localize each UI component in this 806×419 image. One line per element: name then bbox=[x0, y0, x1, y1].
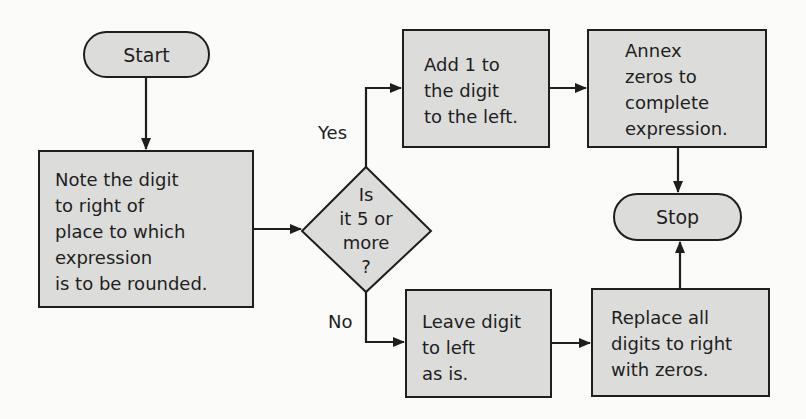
annex-zeros-process: Annex zeros to complete expression. bbox=[587, 29, 767, 148]
decision-line-1: Is bbox=[311, 183, 421, 207]
annex-line-2: zeros to bbox=[625, 64, 751, 90]
note-line-5: is to be rounded. bbox=[55, 271, 238, 297]
start-label: Start bbox=[123, 42, 169, 68]
edge-decision-to-leave bbox=[366, 292, 404, 342]
add-one-process: Add 1 to the digit to the left. bbox=[402, 29, 550, 148]
note-line-4: expression bbox=[55, 245, 238, 271]
stop-label: Stop bbox=[656, 204, 699, 230]
replace-line-3: with zeros. bbox=[611, 357, 754, 383]
leave-line-3: as is. bbox=[422, 361, 536, 387]
no-label: No bbox=[328, 311, 352, 333]
note-line-2: to right of bbox=[55, 193, 238, 219]
yes-label: Yes bbox=[318, 122, 347, 144]
decision-line-3: more bbox=[311, 231, 421, 255]
replace-line-1: Replace all bbox=[611, 305, 754, 331]
decision-text: Is it 5 or more ? bbox=[311, 183, 421, 279]
add-line-1: Add 1 to bbox=[424, 52, 534, 78]
decision-line-2: it 5 or bbox=[311, 207, 421, 231]
leave-line-1: Leave digit bbox=[422, 309, 536, 335]
annex-line-3: complete bbox=[625, 90, 751, 116]
start-terminal: Start bbox=[83, 31, 210, 78]
replace-digits-process: Replace all digits to right with zeros. bbox=[591, 288, 770, 397]
leave-digit-process: Leave digit to left as is. bbox=[405, 289, 552, 398]
note-line-3: place to which bbox=[55, 219, 238, 245]
add-line-2: the digit bbox=[424, 78, 534, 104]
annex-line-4: expression. bbox=[625, 116, 751, 142]
replace-line-2: digits to right bbox=[611, 331, 754, 357]
leave-line-2: to left bbox=[422, 335, 536, 361]
annex-line-1: Annex bbox=[625, 38, 751, 64]
add-line-3: to the left. bbox=[424, 104, 534, 130]
edge-decision-to-add bbox=[366, 88, 401, 167]
note-digit-process: Note the digit to right of place to whic… bbox=[38, 150, 254, 308]
note-line-1: Note the digit bbox=[55, 167, 238, 193]
decision-line-4: ? bbox=[311, 255, 421, 279]
stop-terminal: Stop bbox=[613, 193, 742, 241]
